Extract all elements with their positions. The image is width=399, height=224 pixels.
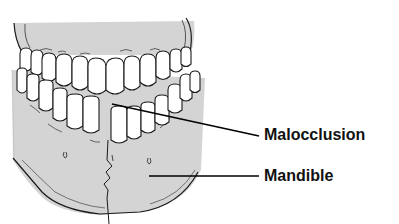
mandible-label: Mandible — [264, 168, 333, 184]
maxilla — [14, 18, 195, 55]
jaw-illustration — [0, 0, 399, 224]
malocclusion-label: Malocclusion — [264, 127, 365, 143]
